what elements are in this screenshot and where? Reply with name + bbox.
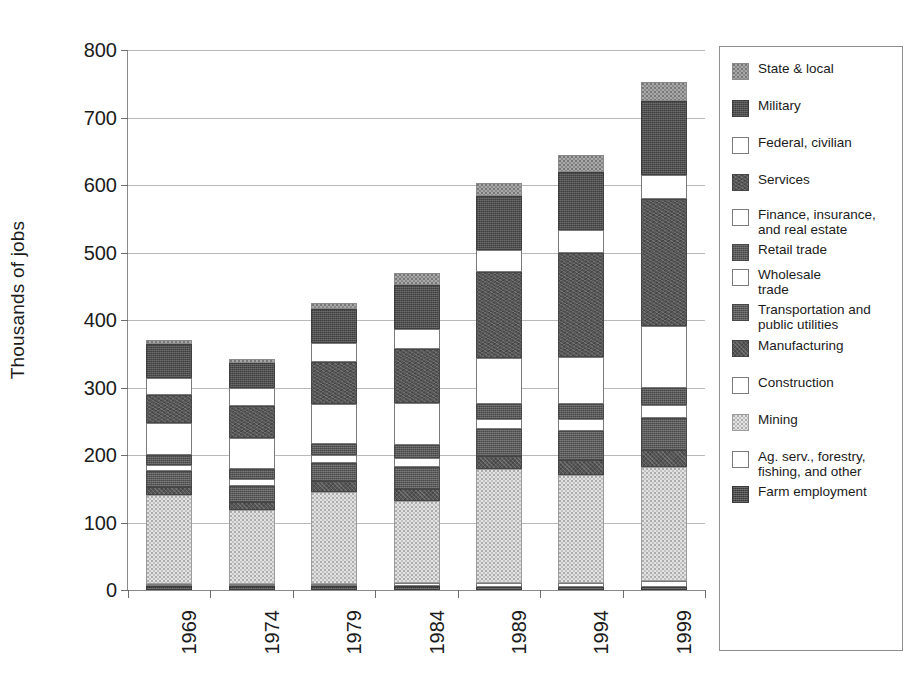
bar-1984[interactable] [394, 273, 440, 590]
bar-segment-retail[interactable] [229, 469, 275, 479]
legend-item[interactable]: Federal, civilian [732, 135, 894, 154]
bar-segment-manu[interactable] [476, 456, 522, 469]
bar-segment-fire[interactable] [311, 404, 357, 444]
bar-segment-state[interactable] [641, 82, 687, 100]
bar-1979[interactable] [311, 303, 357, 590]
bar-segment-mil[interactable] [394, 285, 440, 329]
bar-segment-fed[interactable] [558, 230, 604, 254]
bar-segment-farm[interactable] [394, 586, 440, 590]
bar-segment-serv[interactable] [476, 272, 522, 358]
bar-segment-retail[interactable] [476, 404, 522, 418]
bar-segment-trans[interactable] [558, 431, 604, 460]
bar-1974[interactable] [229, 359, 275, 590]
bar-segment-fire[interactable] [146, 423, 192, 455]
bar-segment-mining[interactable] [229, 510, 275, 584]
legend-item[interactable]: Wholesale trade [732, 267, 894, 297]
bar-segment-whole[interactable] [641, 405, 687, 418]
bar-segment-fire[interactable] [641, 326, 687, 387]
bar-segment-whole[interactable] [476, 419, 522, 430]
bar-segment-trans[interactable] [146, 471, 192, 488]
bar-segment-fire[interactable] [229, 438, 275, 469]
bar-segment-fire[interactable] [476, 358, 522, 405]
legend-item[interactable]: Retail trade [732, 242, 894, 261]
bar-segment-mil[interactable] [311, 309, 357, 343]
bar-segment-trans[interactable] [476, 429, 522, 455]
bar-segment-serv[interactable] [311, 362, 357, 404]
bar-segment-whole[interactable] [558, 419, 604, 431]
legend-item[interactable]: Farm employment [732, 484, 894, 503]
bar-segment-manu[interactable] [311, 481, 357, 492]
legend-swatch-icon [732, 63, 749, 80]
bar-1994[interactable] [558, 155, 604, 590]
bar-segment-whole[interactable] [394, 458, 440, 467]
bar-segment-mil[interactable] [558, 172, 604, 229]
bar-segment-mining[interactable] [476, 469, 522, 584]
bar-segment-retail[interactable] [641, 388, 687, 406]
bar-segment-state[interactable] [476, 183, 522, 196]
bar-segment-state[interactable] [558, 155, 604, 173]
bar-segment-manu[interactable] [558, 460, 604, 475]
bar-segment-retail[interactable] [311, 444, 357, 455]
y-tick-label: 500 [84, 241, 117, 264]
bar-segment-farm[interactable] [476, 587, 522, 590]
legend-item[interactable]: Transportation and public utilities [732, 302, 894, 332]
bar-segment-fed[interactable] [641, 175, 687, 199]
bar-segment-whole[interactable] [311, 455, 357, 463]
bar-segment-farm[interactable] [558, 587, 604, 590]
bar-segment-trans[interactable] [229, 486, 275, 502]
legend-item[interactable]: Mining [732, 412, 894, 431]
bar-segment-manu[interactable] [146, 487, 192, 494]
bar-segment-manu[interactable] [229, 502, 275, 509]
legend-item[interactable]: Military [732, 98, 894, 117]
legend-swatch-icon [732, 137, 749, 154]
bar-segment-fed[interactable] [229, 388, 275, 406]
bar-segment-fed[interactable] [311, 343, 357, 362]
bar-segment-mil[interactable] [146, 344, 192, 378]
bar-1969[interactable] [146, 340, 192, 590]
bar-segment-mining[interactable] [394, 501, 440, 583]
bar-segment-serv[interactable] [146, 395, 192, 423]
bar-segment-mil[interactable] [641, 101, 687, 175]
legend-item[interactable]: Finance, insurance, and real estate [732, 207, 894, 237]
x-tick-mark [705, 590, 706, 598]
y-tick-label: 600 [84, 174, 117, 197]
bar-segment-farm[interactable] [146, 586, 192, 590]
legend-item[interactable]: Services [732, 172, 894, 191]
bar-segment-trans[interactable] [311, 463, 357, 481]
bar-segment-retail[interactable] [558, 404, 604, 420]
bar-segment-manu[interactable] [394, 489, 440, 501]
bar-segment-fire[interactable] [394, 403, 440, 445]
bar-segment-whole[interactable] [229, 479, 275, 486]
legend-item[interactable]: Ag. serv., forestry, fishing, and other [732, 449, 894, 479]
legend-item[interactable]: Construction [732, 375, 894, 394]
bar-segment-mining[interactable] [641, 467, 687, 581]
legend-item[interactable]: Manufacturing [732, 338, 894, 357]
bar-segment-serv[interactable] [229, 406, 275, 438]
bar-segment-state[interactable] [394, 273, 440, 285]
bar-segment-fed[interactable] [146, 378, 192, 395]
bar-segment-serv[interactable] [394, 349, 440, 403]
bar-segment-farm[interactable] [229, 586, 275, 590]
bar-segment-fire[interactable] [558, 357, 604, 404]
bar-segment-mining[interactable] [146, 495, 192, 584]
bar-segment-manu[interactable] [641, 450, 687, 468]
bar-segment-farm[interactable] [311, 586, 357, 590]
bar-segment-trans[interactable] [641, 418, 687, 450]
bar-segment-mil[interactable] [476, 196, 522, 250]
legend-swatch-icon [732, 340, 749, 357]
bar-segment-mining[interactable] [558, 475, 604, 582]
bar-segment-mil[interactable] [229, 363, 275, 389]
bar-segment-farm[interactable] [641, 587, 687, 590]
bar-1999[interactable] [641, 82, 687, 590]
bar-segment-trans[interactable] [394, 467, 440, 489]
legend-item[interactable]: State & local [732, 61, 894, 80]
bar-segment-fed[interactable] [394, 329, 440, 349]
bar-segment-mining[interactable] [311, 492, 357, 584]
bar-1989[interactable] [476, 183, 522, 590]
bar-segment-retail[interactable] [146, 455, 192, 464]
legend-swatch-icon [732, 486, 749, 503]
bar-segment-retail[interactable] [394, 445, 440, 458]
bar-segment-serv[interactable] [558, 253, 604, 357]
bar-segment-serv[interactable] [641, 199, 687, 326]
bar-segment-fed[interactable] [476, 250, 522, 272]
